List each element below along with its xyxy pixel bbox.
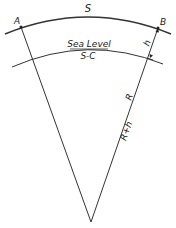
label-s-minus-c: S-C — [80, 51, 96, 61]
label-a: A — [13, 16, 20, 26]
label-r: R — [123, 92, 135, 101]
label-s: S — [85, 3, 92, 14]
label-b: B — [160, 17, 166, 27]
label-sea-level: Sea Level — [67, 39, 111, 49]
label-h: h — [142, 38, 153, 47]
outer-arc-s — [5, 17, 171, 34]
label-r-plus-h: R+h — [118, 120, 134, 142]
geodetic-arc-diagram: S A B Sea Level S-C h R R+h — [0, 0, 176, 228]
h-arrow-bottom — [150, 54, 154, 58]
